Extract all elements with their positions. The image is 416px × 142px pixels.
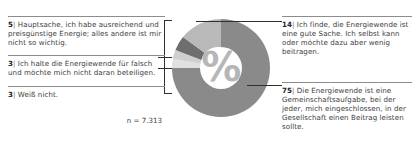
callout-body: Ich halte die Energiewende für falsch un…	[8, 59, 155, 77]
callout-text: 3| Weiß nicht.	[8, 90, 58, 99]
donut-segments	[172, 19, 270, 117]
callout-separator: |	[292, 20, 294, 29]
callout-separator: |	[13, 59, 15, 68]
left-callout-arm-mid	[158, 57, 172, 58]
callout-body: Ich finde, die Energiewende ist eine gut…	[282, 20, 408, 56]
callout-rule	[8, 86, 165, 87]
callout-text: 5| Hauptsache, ich habe ausreichend und …	[8, 20, 165, 47]
callout-value: 14	[282, 20, 292, 29]
callout-rule	[282, 82, 412, 83]
sample-size-label: n = 7.313	[100, 116, 162, 125]
leader-line-75	[247, 85, 282, 86]
callout-separator: |	[292, 86, 294, 95]
donut-chart	[171, 18, 271, 118]
callout-text: 75| Die Energiewende ist eine Gemeinscha…	[282, 86, 412, 131]
callout-body: Die Energiewende ist eine Gemeinschaftsa…	[282, 86, 406, 131]
callout-separator: |	[13, 20, 15, 29]
callout-text: 14| Ich finde, die Energiewende ist eine…	[282, 20, 412, 56]
callout-rule	[8, 55, 165, 56]
leader-line-14	[196, 21, 282, 22]
callout-value: 75	[282, 86, 292, 95]
callout-body: Weiß nicht.	[18, 90, 58, 99]
infographic-root: % 5| Hauptsache, ich habe ausreichend un…	[0, 0, 416, 142]
callout-text: 3| Ich halte die Energiewende für falsch…	[8, 59, 165, 77]
callout-rule	[282, 16, 412, 17]
callout-separator: |	[13, 90, 15, 99]
callout-rule	[8, 16, 165, 17]
left-callout-arm-top	[164, 20, 172, 21]
callout-body: Hauptsache, ich habe ausreichend und pre…	[8, 20, 161, 47]
left-callout-arm-bottom	[164, 93, 172, 94]
